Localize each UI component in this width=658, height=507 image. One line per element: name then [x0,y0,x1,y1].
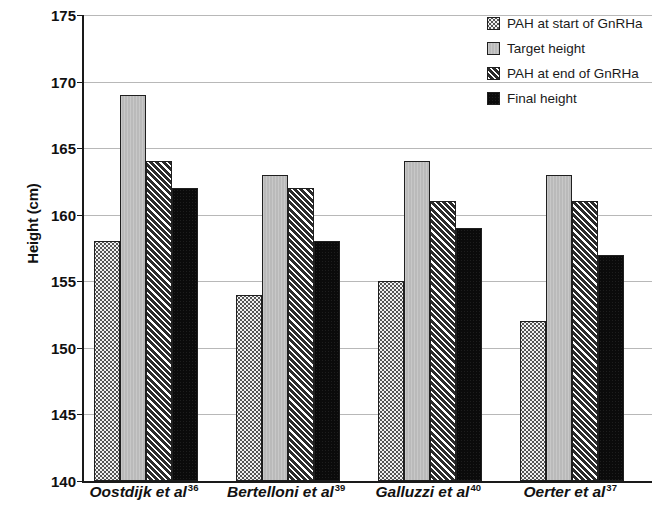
x-axis-tick-label-text: Bertelloni et al [227,483,334,500]
bar [172,188,198,481]
bar [598,255,624,481]
bar [456,228,482,481]
y-axis-tickmark [77,215,84,216]
x-axis-tick-labels: Oostdijk et al36Bertelloni et al39Galluz… [82,483,650,507]
bar [94,241,120,481]
bar [520,321,546,481]
bar [572,201,598,481]
y-axis-tick-label: 170 [32,75,76,90]
x-axis-tick-label-text: Oerter et al [524,483,606,500]
bar-group [94,15,198,481]
legend-item-label: PAH at start of GnRHa [507,16,643,31]
y-axis-tick-label: 140 [32,474,76,489]
x-axis-tick-label: Oostdijk et al36 [90,483,199,501]
legend-swatch-icon [487,42,500,55]
legend-item: Target height [487,36,658,61]
legend-item: PAH at end of GnRHa [487,61,658,86]
y-axis-tick-labels: 175170165160155150145140 [0,0,76,507]
y-axis-tick-label: 155 [32,274,76,289]
chart-legend: PAH at start of GnRHaTarget heightPAH at… [487,11,658,111]
y-axis-tick-label: 150 [32,341,76,356]
y-axis-tick-label: 165 [32,141,76,156]
x-axis-tick-label-reference: 40 [470,482,481,493]
bar-group [236,15,340,481]
x-axis-tick-label: Galluzzi et al40 [376,483,481,501]
legend-item-label: PAH at end of GnRHa [507,66,639,81]
y-axis-tickmark [77,348,84,349]
x-axis-tick-label: Bertelloni et al39 [227,483,345,501]
x-axis-tick-label-reference: 39 [335,482,346,493]
bar [146,161,172,481]
bar [314,241,340,481]
x-axis-tick-label-reference: 36 [188,482,199,493]
y-axis-tickmark [77,148,84,149]
legend-item-label: Target height [507,41,585,56]
bar [404,161,430,481]
bar [288,188,314,481]
y-axis-tick-label: 145 [32,407,76,422]
x-axis-tick-label: Oerter et al37 [524,483,617,501]
y-axis-tick-label: 175 [32,8,76,23]
y-axis-tickmark [77,15,84,16]
y-axis-tickmark [77,414,84,415]
legend-item: PAH at start of GnRHa [487,11,658,36]
bar [378,281,404,481]
legend-item: Final height [487,86,658,111]
legend-item-label: Final height [507,91,577,106]
legend-swatch-icon [487,92,500,105]
y-axis-tick-label: 160 [32,208,76,223]
bar [236,295,262,481]
bar [430,201,456,481]
y-axis-tickmark [77,82,84,83]
y-axis-tickmark [77,481,84,482]
legend-swatch-icon [487,67,500,80]
x-axis-tick-label-text: Galluzzi et al [376,483,470,500]
bar [120,95,146,481]
bar-chart: Height (cm) 175170165160155150145140 Oos… [0,0,658,507]
bar [262,175,288,481]
x-axis-tick-label-text: Oostdijk et al [90,483,187,500]
legend-swatch-icon [487,17,500,30]
bar-group [378,15,482,481]
bar [546,175,572,481]
x-axis-tick-label-reference: 37 [606,482,617,493]
y-axis-tickmark [77,281,84,282]
